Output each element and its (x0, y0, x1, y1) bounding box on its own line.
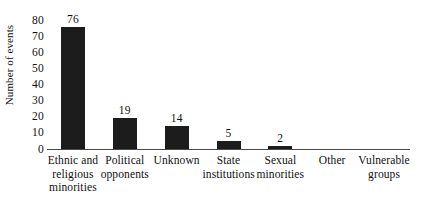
bar-value-label: 76 (48, 13, 98, 25)
y-tick-label: 80 (20, 15, 44, 26)
x-category-label-line: opponents (99, 168, 151, 182)
x-category-label: Vulnerablegroups (358, 154, 410, 181)
x-category-label-line: religious (47, 168, 99, 182)
y-tick-label: 20 (20, 111, 44, 122)
y-tick-label: 70 (20, 31, 44, 42)
x-category-label: Politicalopponents (99, 154, 151, 181)
bar-value-label: 5 (204, 127, 254, 139)
bar (165, 126, 189, 149)
y-tick-label: 50 (20, 63, 44, 74)
x-category-label: Other (306, 154, 358, 168)
y-tick-label: 10 (20, 127, 44, 138)
x-axis-line (47, 149, 410, 150)
x-category-label-line: minorities (254, 168, 306, 182)
x-category-label-line: Sexual (254, 154, 306, 168)
x-category-label: Stateinstitutions (203, 154, 255, 181)
bar (61, 27, 85, 149)
x-category-label-line: State (203, 154, 255, 168)
x-category-label-line: institutions (203, 168, 255, 182)
x-category-label: Sexualminorities (254, 154, 306, 181)
bar (268, 146, 292, 149)
x-category-label-line: groups (358, 168, 410, 182)
y-tick-label: 40 (20, 79, 44, 90)
x-category-label-line: Unknown (151, 154, 203, 168)
bar-value-label: 2 (255, 132, 305, 144)
bar-value-label: 19 (100, 104, 150, 116)
y-tick-label: 0 (20, 144, 44, 155)
x-category-label-line: Vulnerable (358, 154, 410, 168)
x-category-label-line: Ethnic and (47, 154, 99, 168)
y-tick-label: 60 (20, 47, 44, 58)
x-category-label-line: Political (99, 154, 151, 168)
x-category-label: Ethnic andreligiousminorities (47, 154, 99, 195)
bar (217, 141, 241, 149)
x-category-label-line: Other (306, 154, 358, 168)
x-category-label-line: minorities (47, 181, 99, 195)
bar-chart: Number of events 01020304050607080 Ethni… (0, 0, 428, 202)
bar (113, 118, 137, 149)
x-category-label: Unknown (151, 154, 203, 168)
bar-value-label: 14 (152, 112, 202, 124)
y-tick-label: 30 (20, 95, 44, 106)
y-axis-title: Number of events (2, 0, 16, 140)
